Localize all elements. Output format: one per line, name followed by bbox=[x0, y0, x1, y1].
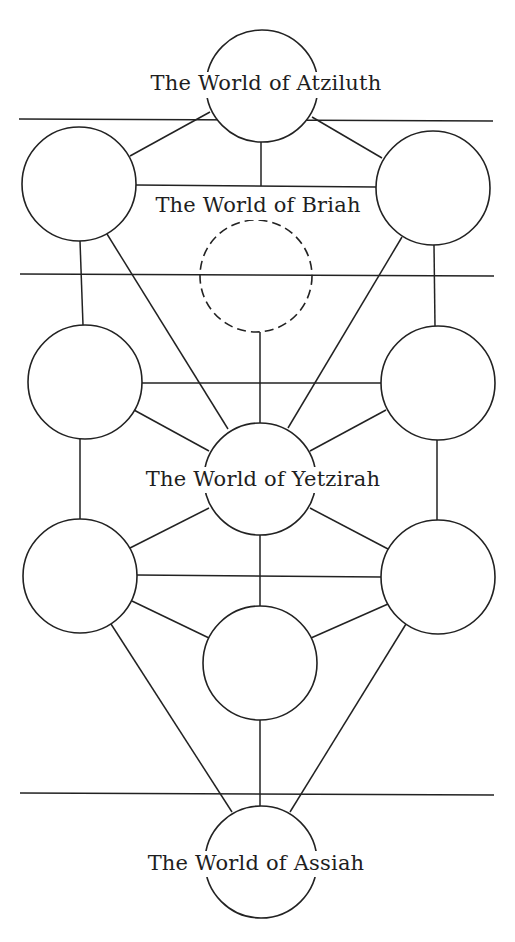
world-label-yetzirah: The World of Yetzirah bbox=[129, 467, 397, 493]
sephira-upper-right bbox=[376, 131, 490, 245]
world-divider-line bbox=[20, 274, 494, 276]
connecting-path bbox=[311, 604, 388, 638]
world-label-atziluth: The World of Atziluth bbox=[133, 71, 398, 98]
connecting-path bbox=[80, 241, 83, 325]
world-divider-line bbox=[20, 793, 494, 795]
world-labels: The World of Atziluth The World of Briah… bbox=[129, 71, 398, 877]
sephira-hidden-center bbox=[200, 220, 312, 332]
world-label-text: The World of Briah bbox=[155, 193, 360, 217]
sephira-middle-left bbox=[28, 325, 142, 439]
sephira-lower-left bbox=[23, 519, 137, 633]
world-label-assiah: The World of Assiah bbox=[132, 851, 382, 877]
world-label-text: The World of Assiah bbox=[148, 851, 365, 875]
connecting-path bbox=[310, 508, 388, 549]
connecting-path bbox=[134, 410, 209, 451]
world-label-text: The World of Atziluth bbox=[151, 71, 382, 95]
connecting-path bbox=[312, 117, 382, 158]
sephira-lower-right bbox=[381, 520, 495, 634]
sephira-lower-center bbox=[203, 606, 317, 720]
world-label-text: The World of Yetzirah bbox=[146, 467, 380, 491]
connecting-path bbox=[130, 508, 209, 548]
connecting-path bbox=[132, 601, 209, 638]
connecting-path bbox=[137, 575, 381, 577]
connecting-path bbox=[130, 112, 210, 156]
connecting-path bbox=[310, 410, 386, 451]
world-label-briah: The World of Briah bbox=[143, 193, 372, 220]
connecting-path bbox=[434, 245, 435, 326]
sephira-middle-right bbox=[381, 326, 495, 440]
tree-of-life-diagram: The World of Atziluth The World of Briah… bbox=[0, 0, 515, 942]
connecting-path bbox=[136, 185, 376, 187]
sephira-upper-left bbox=[22, 127, 136, 241]
